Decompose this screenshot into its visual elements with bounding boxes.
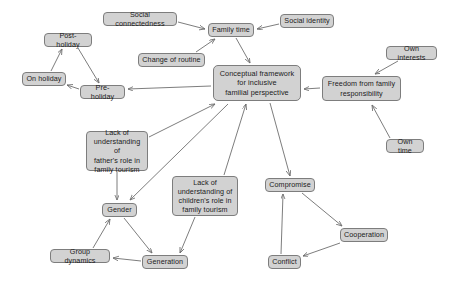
node-lack-fathers-role[interactable]: Lack of understanding of father's role i… bbox=[86, 131, 148, 171]
node-family-time[interactable]: Family time bbox=[208, 23, 254, 37]
node-gender[interactable]: Gender bbox=[102, 203, 137, 217]
node-change-of-routine[interactable]: Change of routine bbox=[138, 53, 205, 67]
node-generation[interactable]: Generation bbox=[142, 255, 188, 269]
node-post-holiday[interactable]: Post-holiday bbox=[44, 33, 92, 47]
node-cooperation[interactable]: Cooperation bbox=[340, 228, 388, 242]
node-lack-childrens-role[interactable]: Lack of understanding of children's role… bbox=[172, 176, 238, 216]
node-own-interests[interactable]: Own interests bbox=[386, 46, 437, 60]
node-conceptual-framework[interactable]: Conceptual framework for inclusive famil… bbox=[213, 65, 301, 101]
node-on-holiday[interactable]: On holiday bbox=[22, 72, 66, 86]
concept-map-diagram: Social connectednessFamily timeSocial id… bbox=[0, 0, 460, 288]
node-social-connectedness[interactable]: Social connectedness bbox=[103, 12, 177, 26]
node-own-time[interactable]: Own time bbox=[386, 139, 424, 153]
node-group-dynamics[interactable]: Group dynamics bbox=[50, 249, 110, 263]
node-compromise[interactable]: Compromise bbox=[265, 178, 315, 192]
node-pre-holiday[interactable]: Pre-holiday bbox=[80, 85, 125, 99]
node-layer: Social connectednessFamily timeSocial id… bbox=[0, 0, 460, 288]
node-conflict[interactable]: Conflict bbox=[268, 255, 301, 269]
node-social-identity[interactable]: Social identity bbox=[280, 14, 334, 28]
node-freedom-family-resp[interactable]: Freedom from family responsibility bbox=[322, 76, 401, 101]
